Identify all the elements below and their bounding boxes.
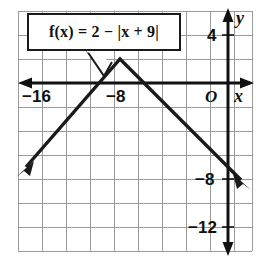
y-tick-label-4: 4 <box>207 27 216 44</box>
y-axis-top-arrowhead <box>223 8 234 22</box>
x-tick-label-neg16: −16 <box>22 88 51 105</box>
x-axis-label: x <box>234 87 243 105</box>
equation-callout: f(x) = 2 − |x + 9| <box>27 13 181 51</box>
function-curve <box>16 59 251 190</box>
equation-text: f(x) = 2 − |x + 9| <box>49 23 159 41</box>
x-axis <box>18 78 254 89</box>
y-tick-label-neg8: −8 <box>195 171 214 188</box>
y-axis-label: y <box>236 9 244 27</box>
y-tick-label-neg12: −12 <box>188 219 217 236</box>
y-axis <box>223 8 234 256</box>
origin-label: O <box>205 88 217 105</box>
y-axis-bottom-arrowhead <box>223 242 234 256</box>
graph-figure: f(x) = 2 − |x + 9| −16 −8 4 −8 −12 O x y <box>0 0 256 265</box>
x-tick-label-neg8: −8 <box>106 88 125 105</box>
